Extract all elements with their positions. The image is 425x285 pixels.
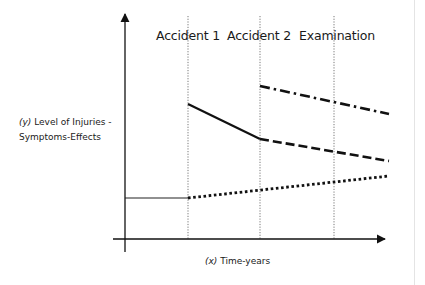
series-natural-progression — [188, 176, 389, 198]
y-axis-prefix: (y) — [19, 117, 31, 127]
series-accident-1-continued — [260, 139, 389, 161]
y-axis-label: (y) Level of Injuries - Symptoms-Effects — [19, 115, 111, 145]
y-axis-label-line1: Level of Injuries - — [31, 117, 111, 127]
series-accident-2-effect — [260, 86, 389, 114]
event-label-examination: Examination — [299, 28, 375, 43]
y-axis-label-line2: Symptoms-Effects — [19, 130, 111, 145]
page-border — [414, 0, 415, 285]
event-label-accident-2: Accident 2 — [227, 28, 291, 43]
x-axis-label: (x) Time-years — [205, 256, 270, 266]
x-axis-prefix: (x) — [205, 256, 217, 266]
event-label-accident-1: Accident 1 — [156, 28, 220, 43]
x-axis-label-text: Time-years — [217, 256, 270, 266]
series-accident-1-effect — [188, 104, 260, 139]
